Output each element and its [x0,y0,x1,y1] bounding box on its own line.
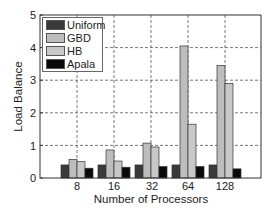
legend-swatch-uniform [46,20,65,30]
bar-gbd-64 [180,46,188,178]
x-tick-32: 32 [137,181,167,192]
bar-apala-128 [233,169,241,178]
legend-item-uniform: Uniform [46,19,106,31]
legend-item-apala: Apala [46,58,95,70]
bar-apala-16 [122,167,130,178]
bar-hb-64 [188,124,196,178]
legend-swatch-hb [46,46,65,56]
y-tick-1: 1 [22,141,36,152]
x-tick-64: 64 [173,181,203,192]
y-tick-5: 5 [22,10,36,21]
x-tick-16: 16 [99,181,129,192]
x-tick-128: 128 [210,181,240,192]
bar-gbd-128 [217,66,225,178]
legend-label-hb: HB [67,45,82,57]
legend-label-uniform: Uniform [67,19,106,31]
legend-label-apala: Apala [67,58,95,70]
bar-hb-8 [77,162,85,178]
bar-uniform-128 [209,165,217,178]
bar-apala-32 [159,167,167,178]
bar-chart: Load Balance 0 1 2 3 4 5 8 16 32 64 128 … [0,0,275,211]
bar-hb-32 [151,147,159,178]
legend: Uniform GBD HB Apala [42,17,103,72]
bar-apala-8 [85,168,93,178]
legend-item-hb: HB [46,45,82,57]
y-tick-0: 0 [22,173,36,184]
bar-gbd-32 [143,143,151,178]
bar-gbd-8 [69,159,77,178]
bar-gbd-16 [106,150,114,178]
y-axis-label: Load Balance [12,57,25,137]
legend-swatch-apala [46,59,65,69]
bar-apala-64 [196,167,204,178]
bar-uniform-32 [135,165,143,178]
legend-item-gbd: GBD [46,32,91,44]
legend-label-gbd: GBD [67,32,91,44]
bar-uniform-16 [98,165,106,178]
bar-hb-16 [114,161,122,178]
x-axis-label: Number of Processors [40,193,262,206]
bar-hb-128 [225,83,233,178]
legend-swatch-gbd [46,33,65,43]
y-tick-2: 2 [22,108,36,119]
bar-uniform-8 [61,165,69,178]
bar-uniform-64 [172,165,180,178]
x-tick-8: 8 [62,181,92,192]
y-tick-3: 3 [22,75,36,86]
y-tick-4: 4 [22,43,36,54]
